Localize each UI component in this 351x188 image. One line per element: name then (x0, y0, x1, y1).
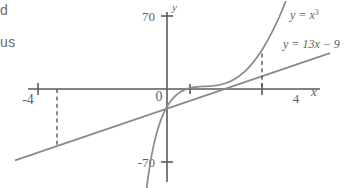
x-tick-label-zero: 0 (156, 89, 163, 104)
cubic-equation-label: y = x3 (289, 8, 319, 22)
cubic-equation-text: y = x (289, 8, 315, 22)
figure-page: nd ous s -4 0 4 70 -70 y x (0, 0, 351, 188)
x-tick-label-neg4: -4 (22, 92, 34, 107)
x-tick-label-pos4: 4 (293, 91, 300, 106)
curves-group (15, 1, 330, 188)
graph-figure: -4 0 4 70 -70 y x y = x3 y = 13x − 9 (0, 0, 351, 188)
y-tick-label-neg70: -70 (138, 155, 155, 170)
curve-equation-labels: y = x3 y = 13x − 9 (282, 8, 340, 51)
line-equation-label: y = 13x − 9 (282, 37, 340, 51)
y-axis-label: y (171, 1, 177, 13)
cubic-equation-exponent: 3 (315, 8, 319, 17)
line-13x-minus-9 (15, 53, 330, 160)
y-tick-label-70: 70 (142, 9, 155, 24)
x-axis-label: x (310, 84, 317, 99)
